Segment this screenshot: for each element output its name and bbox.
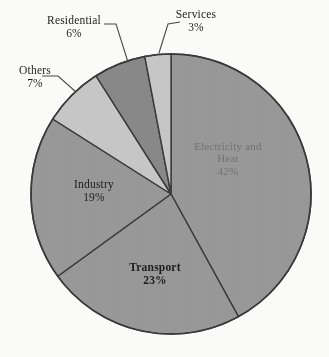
pie-label-others-value: 7%: [2, 77, 68, 90]
pie-label-electricity-and-heat-value: 42%: [176, 165, 280, 177]
pie-label-others-name: Others: [2, 64, 68, 77]
pie-label-others: Others 7%: [2, 64, 68, 90]
pie-label-transport-name: Transport: [106, 261, 204, 274]
pie-label-electricity-and-heat-name-line2: Heat: [176, 152, 280, 164]
pie-label-industry-name: Industry: [48, 178, 140, 191]
pie-label-electricity-and-heat-name-line1: Electricity and: [176, 140, 280, 152]
pie-label-residential-name: Residential: [26, 14, 122, 27]
pie-label-industry: Industry 19%: [48, 178, 140, 204]
pie-label-services-value: 3%: [158, 21, 234, 34]
pie-label-residential-value: 6%: [26, 27, 122, 40]
pie-label-transport: Transport 23%: [106, 261, 204, 287]
pie-label-electricity-and-heat: Electricity and Heat 42%: [176, 140, 280, 177]
pie-label-services: Services 3%: [158, 8, 234, 34]
pie-label-services-name: Services: [158, 8, 234, 21]
pie-label-transport-value: 23%: [106, 274, 204, 287]
pie-label-industry-value: 19%: [48, 191, 140, 204]
pie-chart: Residential 6% Services 3% Others 7% Ind…: [0, 0, 329, 357]
pie-label-residential: Residential 6%: [26, 14, 122, 40]
